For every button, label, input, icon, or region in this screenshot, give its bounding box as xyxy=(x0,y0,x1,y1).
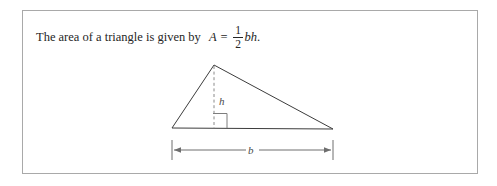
dimension-arrow-left-icon xyxy=(174,147,181,153)
figure-page: The area of a triangle is given by A = 1… xyxy=(0,0,497,186)
height-label: h xyxy=(219,95,225,107)
triangle-diagram: h b xyxy=(0,0,497,186)
base-label: b xyxy=(248,144,254,156)
dimension-arrow-right-icon xyxy=(324,147,331,153)
right-angle-square-icon xyxy=(213,114,227,129)
triangle-shape xyxy=(172,65,333,129)
